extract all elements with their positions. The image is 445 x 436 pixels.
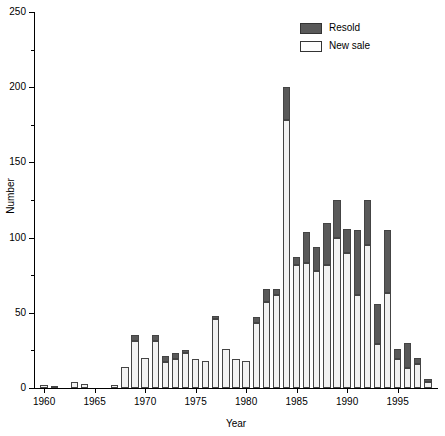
bar-segment-resold: [343, 229, 350, 253]
x-tick-label: 1995: [386, 396, 408, 407]
bar: [354, 230, 361, 388]
bar: [182, 350, 189, 388]
bar-segment-new-sale: [293, 265, 300, 388]
legend-label-new-sale: New sale: [329, 41, 370, 51]
bar: [364, 200, 371, 388]
bar-segment-new-sale: [414, 364, 421, 388]
x-tick: [196, 389, 197, 393]
bar-segment-resold: [273, 289, 280, 295]
bar: [404, 343, 411, 388]
bar-segment-resold: [313, 247, 320, 271]
bar-segment-resold: [172, 353, 179, 359]
bar-segment-new-sale: [182, 353, 189, 388]
bar: [141, 358, 148, 388]
bar-segment-resold: [131, 335, 138, 341]
y-tick-label: 0: [20, 383, 26, 393]
bar-chart-figure: Number 050100150200250 19601965197019751…: [0, 0, 445, 436]
x-tick-label: 1975: [184, 396, 206, 407]
bar-segment-new-sale: [323, 265, 330, 388]
bar-segment-new-sale: [343, 253, 350, 388]
bar-segment-new-sale: [404, 368, 411, 388]
bar-segment-new-sale: [374, 344, 381, 388]
bar-segment-new-sale: [354, 295, 361, 388]
bar: [222, 349, 229, 388]
bar-segment-new-sale: [51, 386, 58, 388]
bar-segment-resold: [253, 317, 260, 323]
bar-segment-new-sale: [152, 341, 159, 388]
bar: [51, 387, 58, 389]
bar-segment-new-sale: [242, 361, 249, 388]
bar-segment-new-sale: [384, 293, 391, 388]
bar: [384, 230, 391, 388]
bar-segment-resold: [404, 343, 411, 369]
x-tick: [95, 389, 96, 393]
bar-segment-resold: [283, 87, 290, 120]
bar: [394, 349, 401, 388]
bar-segment-new-sale: [424, 382, 431, 388]
bar-segment-new-sale: [111, 385, 118, 388]
bar-segment-new-sale: [192, 359, 199, 388]
bar: [273, 289, 280, 388]
bar: [293, 257, 300, 388]
bar-segment-resold: [162, 356, 169, 362]
bar: [333, 200, 340, 388]
bar: [111, 385, 118, 388]
x-axis-title: Year: [226, 418, 246, 429]
plot-area: [34, 12, 438, 388]
legend-item-resold: Resold: [300, 20, 370, 36]
bar-segment-resold: [152, 335, 159, 341]
bar-segment-new-sale: [394, 359, 401, 388]
bar: [152, 335, 159, 388]
y-tick-label: 200: [9, 82, 26, 92]
y-tick-label: 50: [15, 308, 26, 318]
x-tick-label: 1960: [33, 396, 55, 407]
bar: [424, 379, 431, 388]
bar-segment-new-sale: [273, 295, 280, 388]
bar: [323, 223, 330, 388]
x-tick: [297, 389, 298, 393]
x-tick: [145, 389, 146, 393]
bar: [192, 359, 199, 388]
bar: [303, 232, 310, 388]
x-tick: [44, 389, 45, 393]
bar: [172, 353, 179, 388]
bar-segment-resold: [384, 230, 391, 293]
bar: [283, 87, 290, 388]
bar-segment-resold: [424, 379, 431, 382]
bar: [202, 361, 209, 388]
bar-segment-new-sale: [232, 359, 239, 388]
bar: [71, 382, 78, 388]
bar: [313, 247, 320, 388]
bar-segment-resold: [364, 200, 371, 245]
y-axis-ticks: 050100150200250: [0, 0, 34, 436]
bar-segment-new-sale: [71, 382, 78, 388]
bar-segment-resold: [394, 349, 401, 360]
bar-segment-resold: [354, 230, 361, 295]
bar-segment-new-sale: [121, 367, 128, 388]
bar: [131, 335, 138, 388]
bar: [253, 317, 260, 388]
x-tick: [246, 389, 247, 393]
legend-label-resold: Resold: [329, 23, 360, 33]
bar-segment-new-sale: [283, 120, 290, 388]
x-tick-label: 1980: [235, 396, 257, 407]
bar-segment-resold: [414, 358, 421, 364]
bar: [414, 358, 421, 388]
bar-segment-new-sale: [202, 361, 209, 388]
bar: [242, 361, 249, 388]
x-tick: [398, 389, 399, 393]
bar-segment-new-sale: [162, 362, 169, 388]
bar: [81, 384, 88, 389]
bar-segment-new-sale: [141, 358, 148, 388]
bar-segment-resold: [333, 200, 340, 238]
bar-segment-new-sale: [364, 245, 371, 388]
x-tick: [347, 389, 348, 393]
y-tick-label: 100: [9, 233, 26, 243]
bar-segment-new-sale: [212, 319, 219, 388]
bar-segment-new-sale: [172, 359, 179, 388]
bar-segment-new-sale: [131, 341, 138, 388]
bar-segment-resold: [303, 232, 310, 264]
bar: [263, 289, 270, 388]
bar: [162, 356, 169, 388]
bar-segment-resold: [293, 257, 300, 265]
